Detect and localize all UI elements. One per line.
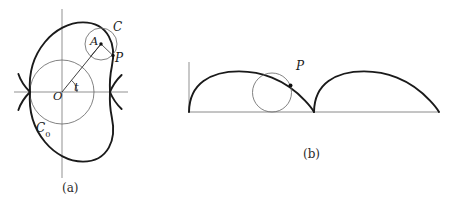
label-base-circle-c0: C0 bbox=[36, 122, 50, 137]
label-angle-t: t bbox=[74, 82, 79, 94]
label-rolling-circle-c: C bbox=[113, 21, 122, 33]
label-base-circle-subscript: 0 bbox=[45, 129, 50, 139]
nephroid-left-cusp-upper bbox=[18, 74, 30, 92]
label-base-circle-letter: C bbox=[36, 121, 45, 135]
caption-panel-b: (b) bbox=[303, 147, 320, 161]
nephroid-right-cusp-upper bbox=[110, 75, 122, 92]
label-center-a: A bbox=[90, 36, 98, 48]
cycloid-arch-1 bbox=[189, 71, 314, 112]
label-origin-o: O bbox=[53, 91, 62, 103]
figure-canvas bbox=[0, 0, 458, 207]
point-p-marker-b bbox=[289, 84, 293, 88]
nephroid-upper-lobe bbox=[30, 22, 113, 92]
caption-panel-a: (a) bbox=[62, 181, 79, 195]
panel-b-rolling-circle bbox=[253, 73, 292, 112]
nephroid-left-cusp-lower bbox=[18, 92, 30, 110]
cycloid-arch-2 bbox=[314, 71, 439, 112]
panel-b-group bbox=[188, 62, 440, 112]
panel-a-group bbox=[14, 9, 128, 178]
nephroid-right-cusp-lower bbox=[110, 92, 122, 109]
figure-container: C A P O t C0 P (a) (b) bbox=[0, 0, 458, 207]
point-a-marker bbox=[99, 42, 102, 45]
label-tracing-point-p-a: P bbox=[115, 52, 123, 64]
spoke-segment-ap bbox=[101, 44, 113, 56]
label-tracing-point-p-b: P bbox=[296, 60, 304, 72]
